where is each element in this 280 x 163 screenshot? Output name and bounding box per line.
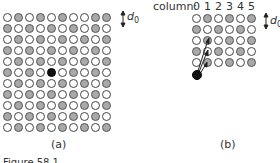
figure-caption: Figure 58.1 [3,157,59,163]
diffusing-atom-b [192,70,202,80]
arrows-layer [0,0,280,163]
